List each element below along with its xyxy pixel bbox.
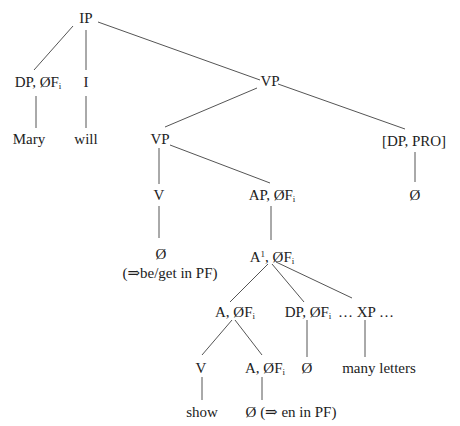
node-vp-inner: VP — [150, 130, 169, 148]
node-vp-top: VP — [260, 72, 279, 90]
node-label: VP — [260, 73, 279, 89]
node-label: will — [74, 131, 97, 147]
node-label: Mary — [13, 131, 46, 147]
node-ip: IP — [79, 9, 92, 27]
node-mary: Mary — [13, 130, 46, 148]
node-label: (⇒be/get in PF) — [122, 265, 217, 281]
node-a-bar: A1, ØFi — [250, 245, 295, 270]
node-label: A — [250, 249, 261, 265]
edge-vp-dppro — [278, 84, 405, 129]
node-many-letters: many letters — [342, 359, 416, 377]
node-subscript: i — [329, 311, 332, 321]
node-subscript: i — [292, 256, 295, 266]
node-null-en-pf: Ø (⇒ en in PF) — [246, 403, 337, 421]
node-xp: … XP … — [338, 303, 394, 321]
node-label: A, ØF — [245, 360, 283, 376]
edge-ip-vp — [98, 22, 260, 80]
node-label: [DP, PRO] — [382, 133, 446, 149]
node-label: Ø — [156, 246, 167, 262]
node-label-rest: , ØF — [265, 249, 292, 265]
edge-a-aen — [235, 320, 262, 355]
node-will: will — [74, 130, 97, 148]
node-be-get-pf: (⇒be/get in PF) — [122, 264, 217, 282]
node-label: I — [84, 74, 89, 90]
node-subscript: i — [293, 194, 296, 204]
node-subscript: i — [283, 367, 286, 377]
node-label: show — [186, 404, 218, 420]
node-subscript: i — [253, 311, 256, 321]
node-label: AP, ØF — [249, 187, 293, 203]
node-null-pro: Ø — [410, 186, 421, 204]
node-label: IP — [79, 10, 92, 26]
node-label: Ø — [302, 360, 313, 376]
node-label: V — [154, 187, 165, 203]
node-label: DP, ØF — [285, 304, 329, 320]
node-subscript: i — [59, 81, 62, 91]
node-dp-pro: [DP, PRO] — [382, 132, 446, 150]
node-null-v: Ø — [156, 245, 167, 263]
edge-vp-vpinner — [165, 88, 257, 127]
node-label: A, ØF — [215, 304, 253, 320]
node-dp-subject: DP, ØFi — [15, 73, 62, 95]
node-a: A, ØFi — [215, 303, 255, 325]
node-label: Ø — [410, 187, 421, 203]
edge-a-v — [202, 320, 232, 355]
node-a-en: A, ØFi — [245, 359, 285, 381]
node-label: … XP … — [338, 304, 394, 320]
edge-vpinner-ap — [170, 145, 270, 183]
edge-ip-dp — [34, 26, 73, 70]
node-v: V — [154, 186, 165, 204]
node-label: many letters — [342, 360, 416, 376]
node-i: I — [84, 73, 89, 91]
syntax-tree: IP DP, ØFi I VP Mary will VP [DP, PRO] V… — [0, 0, 460, 426]
node-show: show — [186, 403, 218, 421]
node-null-dp: Ø — [302, 359, 313, 377]
node-label: DP, ØF — [15, 74, 59, 90]
node-label: Ø (⇒ en in PF) — [246, 404, 337, 420]
node-dp-object: DP, ØFi — [285, 303, 332, 325]
node-label: VP — [150, 131, 169, 147]
node-label: V — [196, 360, 207, 376]
node-v-show: V — [196, 359, 207, 377]
node-ap: AP, ØFi — [249, 186, 296, 208]
